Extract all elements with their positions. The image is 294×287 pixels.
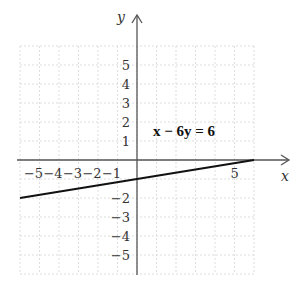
y-tick-label: 5: [122, 58, 130, 73]
y-tick-label: 2: [122, 115, 130, 130]
y-tick-label: 4: [122, 77, 130, 92]
y-axis-label: y: [116, 9, 126, 25]
y-tick-label: −3: [111, 210, 130, 225]
y-tick-label: 3: [122, 96, 130, 111]
x-tick-label: −4: [43, 166, 62, 181]
x-tick-label: −1: [102, 166, 121, 181]
equation-label: x − 6y = 6: [153, 123, 216, 139]
x-tick-label: −2: [82, 166, 101, 181]
x-tick-label: 5: [231, 166, 239, 181]
y-tick-label: 1: [122, 134, 130, 149]
y-tick-label: −5: [111, 248, 130, 263]
x-tick-label: −5: [24, 166, 43, 181]
coordinate-graph: −5−4−3−2−1554321−2−3−4−5 x y x − 6y = 6: [0, 0, 294, 287]
x-axis-label: x: [281, 168, 289, 184]
x-tick-label: −3: [63, 166, 82, 181]
y-tick-label: −2: [111, 191, 130, 206]
y-tick-label: −4: [111, 229, 130, 244]
